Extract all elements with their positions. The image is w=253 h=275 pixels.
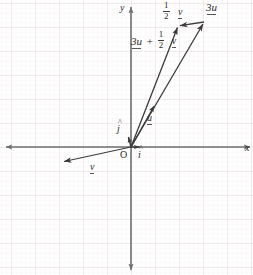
- fraction-numerator-a: 1: [163, 1, 170, 10]
- vector-label-3u-plus-half-v: 3u + 1 2 v: [131, 31, 176, 51]
- x-axis-label: x: [245, 143, 249, 153]
- sum-label-3u-text: 3u: [131, 36, 142, 47]
- vector-label-i-text: i: [138, 150, 141, 160]
- y-axis-label: y: [120, 3, 124, 13]
- vector-label-v: v: [90, 162, 94, 172]
- vector-diagram-figure: y x O ^ i ^ j u v 3u 1 2 v: [0, 0, 253, 275]
- sum-label-v-text: v: [172, 36, 176, 46]
- sum-label-plus: +: [145, 36, 155, 47]
- fraction-one-half-b: 1 2: [158, 30, 165, 50]
- grid-lines: [0, 0, 253, 275]
- fraction-numerator-b: 1: [158, 30, 165, 39]
- vector-label-half-v-text: v: [178, 7, 182, 17]
- vector-label-3u: 3u: [206, 2, 217, 13]
- vector-label-j-hat: ^ j: [117, 124, 120, 134]
- vector-label-j-text: j: [117, 124, 120, 134]
- origin-label: O: [120, 150, 127, 160]
- vector-label-half-v: 1 2 v: [163, 2, 182, 22]
- fraction-one-half-a: 1 2: [163, 1, 170, 21]
- fraction-denominator-a: 2: [163, 12, 170, 21]
- vector-label-u: u: [147, 113, 152, 123]
- vector-label-3u-text: 3u: [206, 2, 217, 13]
- vector-label-v-text: v: [90, 162, 94, 172]
- vector-label-u-text: u: [147, 113, 152, 123]
- fraction-denominator-b: 2: [158, 41, 165, 50]
- vector-label-i-hat: ^ i: [138, 150, 141, 160]
- diagram-canvas: [0, 0, 253, 275]
